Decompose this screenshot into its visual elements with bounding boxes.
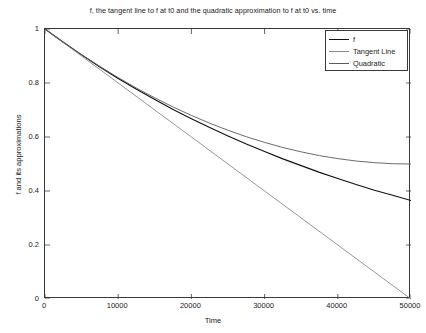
x-tick-label: 10000 bbox=[87, 301, 147, 310]
x-tick-label: 0 bbox=[14, 301, 74, 310]
chart-legend[interactable]: fTangent LineQuadratic bbox=[325, 30, 408, 71]
y-axis-label: f and its approximations bbox=[14, 85, 23, 225]
legend-item[interactable]: Tangent Line bbox=[326, 46, 409, 58]
y-tick-label: 1 bbox=[5, 24, 39, 33]
legend-label: f bbox=[353, 34, 355, 46]
legend-swatch bbox=[329, 51, 349, 52]
figure-canvas: f, the tangent line to f at t0 and the q… bbox=[0, 0, 426, 333]
legend-swatch bbox=[329, 39, 349, 40]
y-tick-label: 0.2 bbox=[5, 240, 39, 249]
chart-title: f, the tangent line to f at t0 and the q… bbox=[0, 6, 426, 15]
legend-label: Tangent Line bbox=[353, 46, 395, 58]
legend-item[interactable]: f bbox=[326, 34, 409, 46]
x-tick-label: 40000 bbox=[307, 301, 367, 310]
x-axis-label: Time bbox=[0, 316, 426, 325]
legend-item[interactable]: Quadratic bbox=[326, 58, 409, 70]
x-tick-label: 30000 bbox=[234, 301, 294, 310]
x-tick-label: 50000 bbox=[380, 301, 426, 310]
legend-label: Quadratic bbox=[353, 58, 385, 70]
legend-swatch bbox=[329, 63, 349, 64]
x-tick-label: 20000 bbox=[160, 301, 220, 310]
